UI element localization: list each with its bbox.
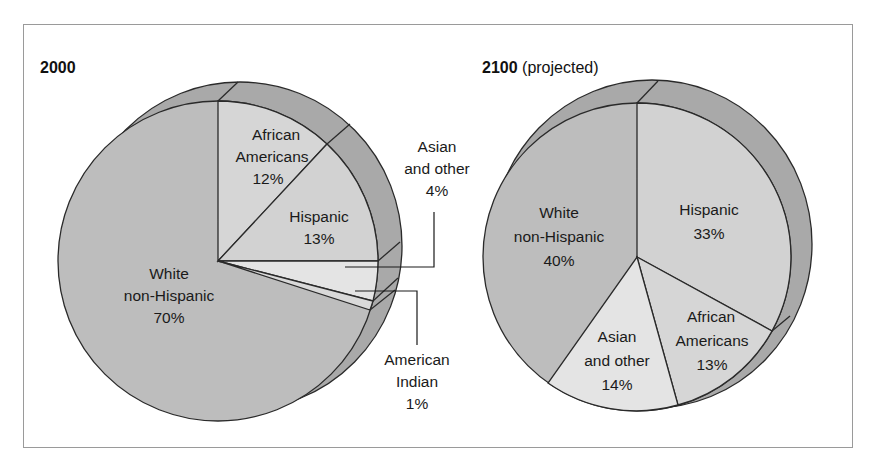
svg-text:70%: 70% (153, 309, 184, 326)
svg-text:White: White (539, 204, 579, 221)
svg-text:40%: 40% (543, 252, 574, 269)
svg-text:and other: and other (404, 160, 470, 177)
svg-text:and other: and other (584, 352, 650, 369)
svg-text:White: White (149, 265, 189, 282)
svg-text:13%: 13% (303, 230, 334, 247)
svg-text:Asian: Asian (418, 138, 457, 155)
svg-text:12%: 12% (252, 170, 283, 187)
svg-text:Hispanic: Hispanic (679, 201, 739, 218)
svg-text:Indian: Indian (396, 373, 438, 390)
svg-text:14%: 14% (601, 376, 632, 393)
svg-text:Hispanic: Hispanic (289, 208, 349, 225)
svg-text:American: American (384, 351, 449, 368)
svg-text:4%: 4% (426, 182, 449, 199)
pie-2000 (58, 82, 434, 421)
svg-text:13%: 13% (696, 356, 727, 373)
svg-text:Americans: Americans (235, 148, 308, 165)
svg-text:non-Hispanic: non-Hispanic (124, 287, 215, 304)
svg-text:Asian: Asian (598, 328, 637, 345)
svg-text:African: African (252, 126, 300, 143)
svg-text:1%: 1% (406, 395, 429, 412)
pie-charts: African Americans 12% Hispanic 13% White… (0, 0, 879, 463)
svg-text:Americans: Americans (675, 332, 748, 349)
svg-text:non-Hispanic: non-Hispanic (514, 228, 605, 245)
svg-text:33%: 33% (693, 225, 724, 242)
svg-text:African: African (687, 308, 735, 325)
